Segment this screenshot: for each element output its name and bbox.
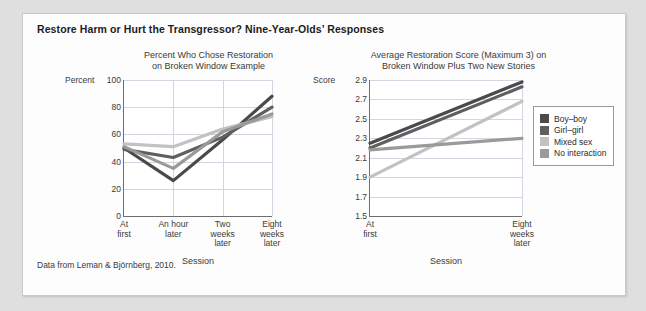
legend-swatch bbox=[540, 114, 549, 123]
legend-swatch bbox=[540, 137, 549, 146]
chart-left-series-lines bbox=[124, 80, 272, 216]
legend-label: Girl–girl bbox=[554, 125, 583, 135]
chart-left-y-axis-label: Percent bbox=[65, 75, 94, 85]
chart-right-y-axis-label: Score bbox=[313, 75, 335, 85]
legend-item: Girl–girl bbox=[540, 125, 606, 135]
y-tick-label: 1.9 bbox=[355, 172, 370, 182]
legend-swatch bbox=[540, 149, 549, 158]
chart-right-plotwrap: Score 1.51.71.92.12.32.52.72.9 AtfirstEi… bbox=[311, 76, 571, 226]
chart-left-subtitle: Percent Who Chose Restoration on Broken … bbox=[101, 50, 316, 72]
y-tick-label: 1.7 bbox=[355, 192, 370, 202]
chart-panel-left: Percent Who Chose Restoration on Broken … bbox=[61, 50, 321, 226]
legend-item: No interaction bbox=[540, 148, 606, 158]
chart-right-series-lines bbox=[370, 80, 522, 216]
y-tick-label: 80 bbox=[112, 102, 124, 112]
chart-legend: Boy–boyGirl–girlMixed sexNo interaction bbox=[533, 106, 614, 166]
y-tick-label: 2.7 bbox=[355, 94, 370, 104]
x-tick-label: Eightweekslater bbox=[498, 220, 546, 249]
chart-right-subtitle-line2: Broken Window Plus Two New Stories bbox=[346, 61, 571, 72]
legend-label: No interaction bbox=[554, 148, 606, 158]
chart-left-subtitle-line1: Percent Who Chose Restoration bbox=[101, 50, 316, 61]
y-tick-label: 40 bbox=[112, 157, 124, 167]
figure-title: Restore Harm or Hurt the Transgressor? N… bbox=[37, 23, 597, 35]
y-tick-label: 2.5 bbox=[355, 114, 370, 124]
figure-root: Restore Harm or Hurt the Transgressor? N… bbox=[0, 0, 646, 311]
legend-label: Boy–boy bbox=[554, 114, 587, 124]
chart-right-x-axis-title: Session bbox=[370, 256, 522, 266]
legend-item: Mixed sex bbox=[540, 137, 606, 147]
y-tick-label: 2.9 bbox=[355, 75, 370, 85]
x-tick-label: Atfirst bbox=[346, 220, 394, 239]
y-tick-label: 2.1 bbox=[355, 153, 370, 163]
chart-left-plot-area: 020406080100 AtfirstAn hourlaterTwoweeks… bbox=[123, 80, 272, 217]
chart-right-plot-area: 1.51.71.92.12.32.52.72.9 AtfirstEightwee… bbox=[369, 80, 522, 217]
vertical-gridline bbox=[272, 80, 273, 216]
x-tick-label: Atfirst bbox=[100, 220, 148, 239]
figure-source-note: Data from Leman & Björnberg, 2010. bbox=[37, 260, 176, 270]
legend-swatch bbox=[540, 126, 549, 135]
x-tick-label: An hourlater bbox=[149, 220, 197, 239]
x-tick-label: Eightweekslater bbox=[248, 220, 296, 249]
legend-item: Boy–boy bbox=[540, 114, 606, 124]
y-tick-label: 60 bbox=[112, 129, 124, 139]
chart-left-plotwrap: Percent 020406080100 AtfirstAn hourlater… bbox=[61, 76, 321, 226]
legend-label: Mixed sex bbox=[554, 137, 592, 147]
chart-right-subtitle: Average Restoration Score (Maximum 3) on… bbox=[346, 50, 571, 72]
x-tick-label: Twoweekslater bbox=[199, 220, 247, 249]
y-tick-label: 2.3 bbox=[355, 133, 370, 143]
chart-panel-right: Average Restoration Score (Maximum 3) on… bbox=[311, 50, 571, 226]
y-tick-label: 20 bbox=[112, 184, 124, 194]
figure-card: Restore Harm or Hurt the Transgressor? N… bbox=[22, 13, 626, 296]
chart-left-subtitle-line2: on Broken Window Example bbox=[101, 61, 316, 72]
chart-right-subtitle-line1: Average Restoration Score (Maximum 3) on bbox=[346, 50, 571, 61]
y-tick-label: 100 bbox=[107, 75, 124, 85]
